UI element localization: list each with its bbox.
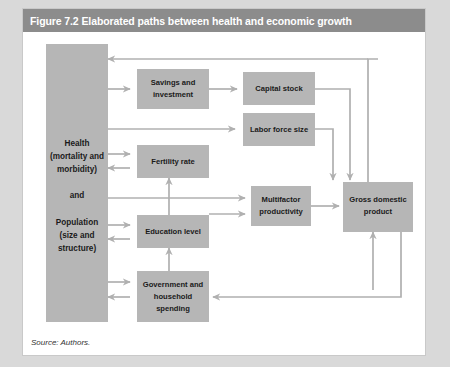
node-savings-line-0: Savings and <box>151 78 196 87</box>
node-multifactor-line-1: productivity <box>259 207 303 216</box>
figure-title-bar: Figure 7.2 Elaborated paths between heal… <box>23 9 425 32</box>
node-driver-line-0: Health <box>64 139 89 148</box>
node-government-line-2: spending <box>156 304 190 313</box>
node-labor-force-size: Labor force size <box>243 113 315 146</box>
node-government-household-spending: Government and household spending <box>137 271 209 322</box>
node-labor-force-line-0: Labor force size <box>250 125 308 134</box>
edge-labor-to-gdp <box>315 129 333 180</box>
node-gross-domestic-product: Gross domestic product <box>343 182 413 232</box>
node-savings-line-1: investment <box>153 90 194 99</box>
node-driver-line-1: (mortality and <box>50 152 104 161</box>
node-driver-line-4: and <box>70 191 85 200</box>
node-driver-line-2: morbidity) <box>57 165 97 174</box>
node-education-line-0: Education level <box>145 227 201 236</box>
node-savings-and-investment: Savings and investment <box>137 69 209 109</box>
node-driver-line-8: structure) <box>58 244 96 253</box>
flow-diagram: Health (mortality and morbidity) and Pop… <box>23 32 425 332</box>
figure-title: Figure 7.2 Elaborated paths between heal… <box>23 15 352 27</box>
node-capital-stock-line-0: Capital stock <box>255 84 303 93</box>
diagram-canvas: Health (mortality and morbidity) and Pop… <box>23 32 425 357</box>
node-driver-line-6: Population <box>56 218 98 227</box>
node-multifactor-productivity: Multifactor productivity <box>251 186 311 226</box>
node-fertility-rate: Fertility rate <box>137 145 209 178</box>
figure-panel: Figure 7.2 Elaborated paths between heal… <box>22 8 426 356</box>
node-gdp-line-0: Gross domestic <box>349 195 406 204</box>
node-fertility-line-0: Fertility rate <box>151 157 194 166</box>
node-multifactor-line-0: Multifactor <box>262 195 301 204</box>
node-government-line-1: household <box>154 292 193 301</box>
node-education-level: Education level <box>137 215 209 248</box>
source-note: Source: Authors. <box>31 338 90 347</box>
node-government-line-0: Government and <box>143 280 204 289</box>
node-gdp-line-1: product <box>364 207 393 216</box>
node-capital-stock: Capital stock <box>243 72 315 105</box>
node-driver-line-7: (size and <box>59 231 94 240</box>
node-driver: Health (mortality and morbidity) and Pop… <box>46 44 108 322</box>
